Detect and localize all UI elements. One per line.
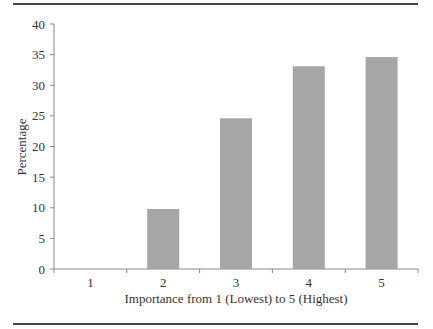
- bar-3: [220, 118, 252, 269]
- y-tick-label: 5: [39, 231, 46, 246]
- x-tick-label: 3: [233, 275, 240, 290]
- y-tick-label: 20: [32, 139, 45, 154]
- x-tick-label: 4: [306, 275, 313, 290]
- x-axis-label: Importance from 1 (Lowest) to 5 (Highest…: [124, 291, 347, 306]
- bar-4: [293, 66, 325, 269]
- y-tick-label: 15: [32, 170, 45, 185]
- y-tick-label: 30: [32, 78, 45, 93]
- y-axis: 0510152025303540: [32, 17, 54, 277]
- y-tick-label: 0: [39, 262, 46, 277]
- x-tick-label: 2: [160, 275, 167, 290]
- y-tick-label: 10: [32, 200, 45, 215]
- y-tick-label: 35: [32, 47, 45, 62]
- y-tick-label: 25: [32, 108, 45, 123]
- bars: [147, 57, 397, 269]
- y-tick-label: 40: [32, 17, 45, 32]
- x-tick-label: 5: [378, 275, 385, 290]
- bar-5: [366, 57, 398, 269]
- bar-chart: 0510152025303540 12345 Percentage Import…: [0, 0, 433, 329]
- y-axis-label: Percentage: [14, 118, 29, 175]
- bar-2: [147, 209, 179, 269]
- x-tick-label: 1: [87, 275, 94, 290]
- x-axis: 12345: [54, 269, 418, 290]
